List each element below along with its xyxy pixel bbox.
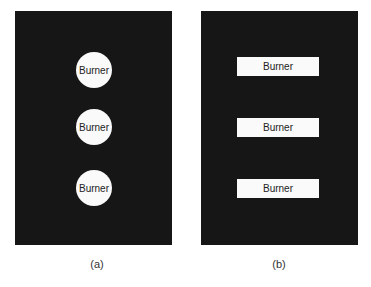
burner-label: Burner	[79, 65, 109, 76]
panel-a-circular-burners: Burner Burner Burner	[15, 11, 172, 245]
rectangular-burner-3: Burner	[237, 179, 319, 198]
burner-label: Burner	[263, 183, 293, 194]
circular-burner-3: Burner	[76, 170, 112, 206]
caption-b: (b)	[259, 258, 299, 270]
rectangular-burner-1: Burner	[237, 57, 319, 76]
burner-label: Burner	[79, 183, 109, 194]
burner-label: Burner	[79, 122, 109, 133]
rectangular-burner-2: Burner	[237, 118, 319, 137]
burner-label: Burner	[263, 61, 293, 72]
panel-b-rectangular-burners: Burner Burner Burner	[201, 11, 358, 245]
circular-burner-2: Burner	[76, 109, 112, 145]
caption-a: (a)	[77, 258, 117, 270]
circular-burner-1: Burner	[76, 52, 112, 88]
burner-label: Burner	[263, 122, 293, 133]
